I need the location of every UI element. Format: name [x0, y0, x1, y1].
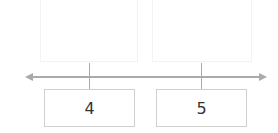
number-line-axis — [30, 76, 261, 78]
arrow-right-icon — [259, 73, 267, 81]
label-value: 5 — [196, 99, 206, 118]
tick-mark-1 — [89, 63, 90, 89]
label-value: 4 — [84, 99, 94, 118]
label-box-1[interactable]: 4 — [44, 89, 135, 127]
tick-mark-2 — [201, 63, 202, 89]
faint-box-top-left — [40, 0, 138, 62]
faint-box-top-right — [152, 0, 252, 62]
label-box-2[interactable]: 5 — [156, 89, 247, 127]
